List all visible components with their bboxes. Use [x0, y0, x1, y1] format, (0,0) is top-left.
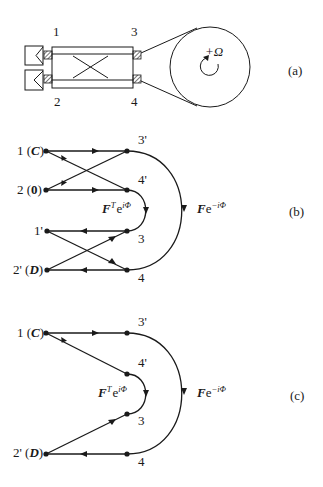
arrow-1-3p-icon — [92, 148, 99, 154]
node-2 — [43, 187, 48, 192]
node-2-label: 2 (0) — [17, 182, 42, 197]
inner-transfer-label: FTeiΦ — [101, 200, 132, 216]
node-3 — [124, 411, 129, 416]
node-2pD-label: 2' (D) — [13, 262, 43, 277]
port-1-label: 1 — [53, 24, 60, 39]
panel-a-tag: (a) — [288, 63, 302, 78]
panel-c: 1 (C) 2' (D) 3' 4' 3 4 FTeiΦ Fe−iΦ (c) — [13, 314, 304, 469]
rotation-label: +Ω — [205, 44, 223, 59]
arrow-inner-loop-icon — [143, 207, 149, 214]
node-4 — [124, 267, 129, 272]
node-3p-label: 3' — [138, 132, 147, 147]
node-3p — [124, 330, 129, 335]
detector-1-icon — [25, 46, 43, 65]
sagnac-figure: 1 3 2 4 — [0, 0, 323, 487]
arrow-4-2p-icon — [80, 451, 87, 457]
node-2pD-label: 2' (D) — [13, 445, 43, 460]
arrow-3-1p-icon — [80, 228, 87, 234]
fiber-lead-4 — [141, 81, 197, 106]
node-4p — [124, 371, 129, 376]
panel-c-tag: (c) — [290, 388, 304, 403]
node-1p — [44, 228, 49, 233]
panel-a: 1 3 2 4 — [25, 24, 302, 109]
node-4p-label: 4' — [138, 172, 147, 187]
arrow-inner-loop-icon — [143, 390, 149, 397]
node-4-label: 4 — [138, 270, 145, 285]
node-1p-label: 1' — [34, 223, 43, 238]
node-4p — [124, 187, 129, 192]
panel-b: 1 (C) 2 (0) 1' 2' (D) 3' 4' 3 4 — [13, 132, 304, 285]
node-1C-label: 1 (C) — [17, 143, 44, 158]
port-2-label: 2 — [54, 94, 61, 109]
splice-3 — [133, 51, 141, 59]
fiber-coil — [170, 27, 250, 107]
node-4-label: 4 — [138, 454, 145, 469]
arrow-3-2p-icon — [108, 419, 116, 425]
port-4-label: 4 — [131, 94, 138, 109]
node-1C — [43, 330, 48, 335]
node-1C — [43, 148, 48, 153]
splice-1 — [44, 51, 52, 59]
node-3-label: 3 — [138, 413, 145, 428]
splice-2 — [44, 75, 52, 83]
arrow-1-3p-icon — [92, 330, 99, 336]
node-3p-label: 3' — [138, 314, 147, 329]
node-3 — [124, 228, 129, 233]
node-4p-label: 4' — [138, 355, 147, 370]
outer-transfer-label: Fe−iΦ — [196, 384, 227, 400]
inner-transfer-label: FTeiΦ — [97, 384, 128, 400]
arrow-4-2p-icon — [80, 267, 87, 273]
arrow-2-4p-icon — [92, 187, 99, 193]
coupler — [52, 47, 133, 88]
node-3-label: 3 — [138, 231, 145, 246]
node-4 — [124, 451, 129, 456]
node-1C-label: 1 (C) — [17, 325, 44, 340]
panel-b-tag: (b) — [289, 204, 304, 219]
node-2pD — [43, 451, 48, 456]
node-2pD — [44, 267, 49, 272]
port-3-label: 3 — [131, 24, 138, 39]
splice-4 — [133, 75, 141, 83]
node-3p — [124, 148, 129, 153]
fiber-lead-3 — [141, 28, 197, 53]
detector-2-icon — [25, 70, 43, 90]
outer-transfer-label: Fe−iΦ — [196, 200, 227, 216]
